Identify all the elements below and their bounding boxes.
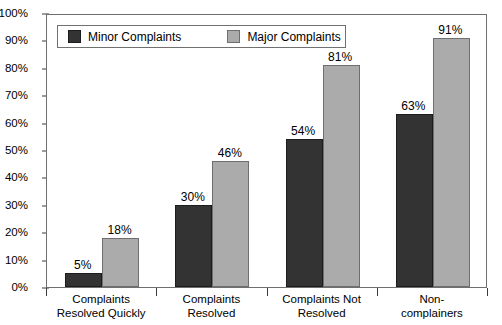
y-tick-label: 10% <box>0 255 28 267</box>
x-category-label: Non-complainers <box>397 292 467 321</box>
chart-legend: Minor Complaints Major Complaints <box>57 25 346 48</box>
y-tick-label: 30% <box>0 200 28 212</box>
bar <box>396 114 433 287</box>
x-category-label: Complaints Not Resolved <box>282 292 361 321</box>
x-category-label: Complaints Resolved Quickly <box>57 292 146 321</box>
bar-value-label: 18% <box>108 224 132 236</box>
y-tick-label: 90% <box>0 36 28 48</box>
legend-item-minor-complaints: Minor Complaints <box>68 26 181 47</box>
x-category-label: Complaints Resolved <box>183 292 241 321</box>
y-tick-label: 80% <box>0 63 28 75</box>
bar-value-label: 91% <box>438 24 462 36</box>
bar-value-label: 30% <box>181 191 205 203</box>
bar <box>102 238 139 287</box>
bar <box>212 161 249 287</box>
legend-label-major: Major Complaints <box>247 31 340 43</box>
bar-value-label: 46% <box>218 147 242 159</box>
y-tick-label: 0% <box>0 282 28 294</box>
y-tick-label: 100% <box>0 8 28 20</box>
y-tick-label: 60% <box>0 118 28 130</box>
legend-swatch-icon-minor <box>68 30 81 43</box>
legend-item-major-complaints: Major Complaints <box>227 26 340 47</box>
bar <box>65 273 102 287</box>
y-tick-label: 50% <box>0 145 28 157</box>
legend-label-minor: Minor Complaints <box>88 31 181 43</box>
x-tick-mark <box>267 288 268 296</box>
bar <box>323 65 360 287</box>
plot-area <box>46 14 487 288</box>
x-tick-mark <box>46 288 47 296</box>
bar <box>433 38 470 287</box>
x-tick-mark <box>156 288 157 296</box>
y-tick-label: 70% <box>0 90 28 102</box>
bar-value-label: 5% <box>74 259 91 271</box>
y-axis: 0%10%20%30%40%50%60%70%80%90%100% <box>0 0 40 325</box>
bar-chart: 0%10%20%30%40%50%60%70%80%90%100% 5%18%3… <box>0 0 502 325</box>
bar <box>175 205 212 287</box>
y-tick-label: 40% <box>0 173 28 185</box>
bar-value-label: 63% <box>401 100 425 112</box>
y-tick-label: 20% <box>0 227 28 239</box>
bar-value-label: 54% <box>291 125 315 137</box>
x-tick-mark <box>487 288 488 296</box>
x-tick-mark <box>377 288 378 296</box>
legend-swatch-icon-major <box>227 30 240 43</box>
bar-value-label: 81% <box>328 51 352 63</box>
bar <box>286 139 323 287</box>
